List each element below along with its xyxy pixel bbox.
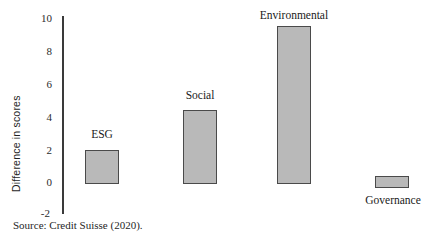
bar-esg	[85, 150, 119, 184]
bar-social	[183, 110, 217, 184]
bar-label-environmental: Environmental	[248, 9, 340, 21]
bar-label-governance: Governance	[360, 194, 426, 206]
y-tick-label-2: 2	[30, 145, 52, 156]
bar-governance	[375, 176, 409, 188]
source-note: Source: Credit Suisse (2020).	[13, 219, 143, 231]
y-tick-label-10: 10	[30, 13, 52, 24]
bar-label-esg: ESG	[82, 128, 122, 140]
chart-figure: Difference in scores 10 8 6 4 2 0 -2 ESG…	[0, 0, 438, 236]
y-tick-label-0: 0	[30, 177, 52, 188]
plot-area: Difference in scores 10 8 6 4 2 0 -2 ESG…	[0, 0, 438, 236]
y-axis-line	[62, 16, 64, 214]
y-axis-title: Difference in scores	[10, 95, 22, 192]
y-tick-label-8: 8	[30, 46, 52, 57]
bar-environmental	[277, 26, 311, 184]
y-tick-label-4: 4	[30, 112, 52, 123]
y-tick-label-minus2: -2	[28, 208, 50, 219]
bar-label-social: Social	[174, 89, 226, 101]
y-tick-label-6: 6	[30, 79, 52, 90]
